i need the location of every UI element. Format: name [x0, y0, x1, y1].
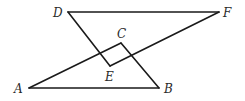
label-d: D: [52, 6, 63, 20]
triangle-abc: [29, 43, 159, 88]
segment-ef: [110, 12, 219, 66]
geometry-diagram: A B C D E F: [0, 0, 245, 101]
segment-cb: [121, 43, 159, 88]
label-b: B: [163, 82, 173, 96]
label-a: A: [13, 82, 23, 96]
label-e: E: [104, 70, 114, 84]
label-c: C: [117, 27, 126, 41]
label-f: F: [222, 6, 232, 20]
